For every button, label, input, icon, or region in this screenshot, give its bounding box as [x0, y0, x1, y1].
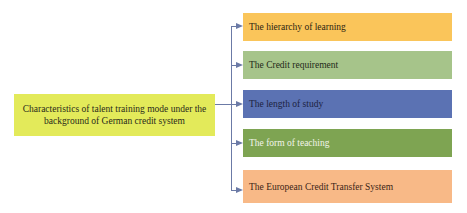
branch-label: The European Credit Transfer System [249, 182, 393, 192]
branch-label: The form of teaching [249, 138, 329, 148]
branch-node-ects: The European Credit Transfer System [243, 170, 452, 203]
branch-label: The hierarchy of learning [249, 22, 346, 32]
arrow-icon [236, 187, 243, 193]
arrow-icon [236, 101, 243, 107]
arrow-icon [236, 140, 243, 146]
branch-node-length-of-study: The length of study [243, 90, 452, 118]
branch-label: The length of study [249, 99, 323, 109]
vertical-trunk-line [231, 26, 232, 191]
arrow-icon [236, 23, 243, 29]
root-node-label: Characteristics of talent training mode … [14, 103, 215, 127]
arrow-icon [236, 62, 243, 68]
root-connector-line [215, 104, 231, 105]
branch-node-credit-requirement: The Credit requirement [243, 51, 452, 79]
branch-label: The Credit requirement [249, 60, 338, 70]
branch-node-hierarchy: The hierarchy of learning [243, 13, 452, 41]
root-node: Characteristics of talent training mode … [14, 94, 215, 136]
branch-node-form-of-teaching: The form of teaching [243, 129, 452, 157]
